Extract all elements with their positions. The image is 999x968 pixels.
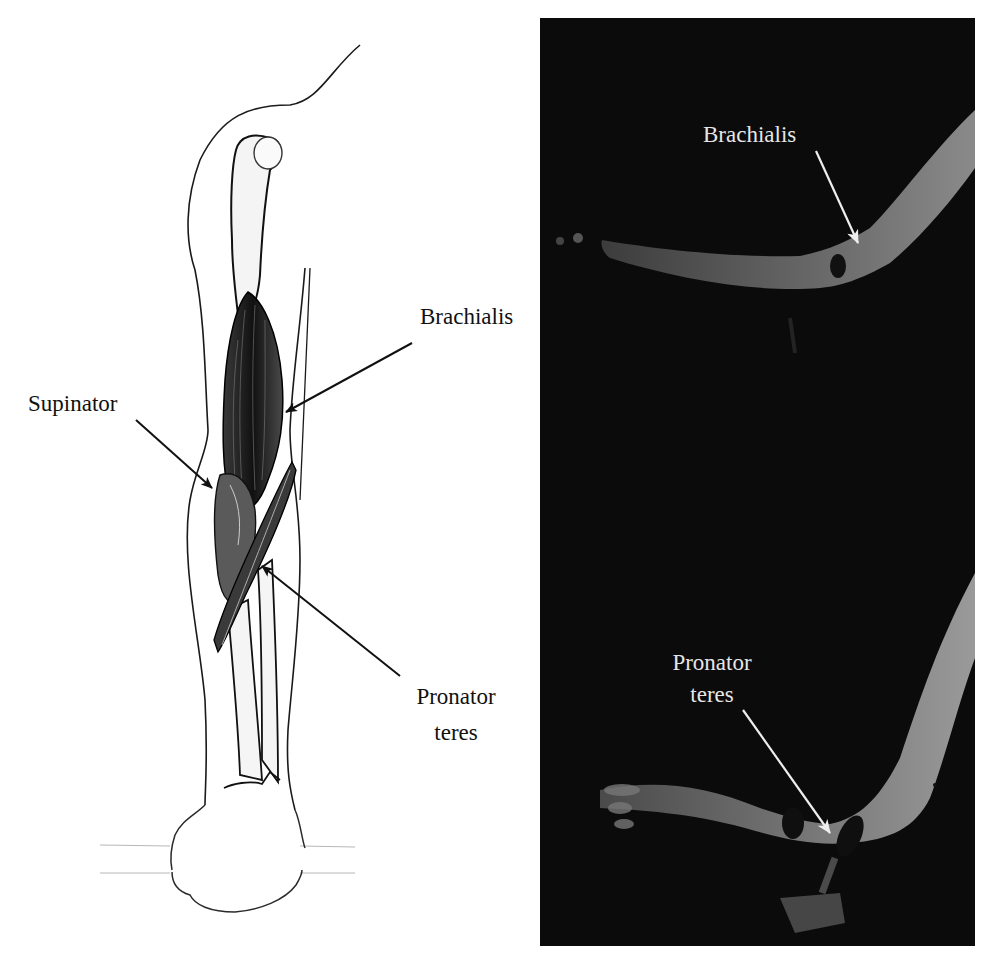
label-pronator-teres-line2: teres	[404, 720, 508, 746]
arm-photos	[540, 18, 975, 946]
photo-label-brachialis: Brachialis	[703, 122, 796, 148]
photo-label-pronator-teres-line1: Pronator	[664, 650, 760, 676]
arm-drawing	[0, 0, 538, 968]
label-supinator: Supinator	[28, 391, 117, 417]
photo-label-pronator-teres-line2: teres	[664, 682, 760, 708]
photo-brachialis-arrow	[816, 151, 858, 243]
bottom-arm-photo	[600, 573, 975, 933]
label-pronator-teres-line1: Pronator	[404, 684, 508, 710]
drawing-panel: Brachialis Supinator Pronator teres	[0, 0, 538, 968]
hand-outline	[171, 805, 305, 912]
supinator-arrow	[136, 420, 212, 488]
pronator-teres-arrow	[262, 566, 400, 676]
photo-label-pronator-teres: Pronator teres	[664, 650, 760, 708]
table-lines	[100, 845, 355, 873]
anatomy-figure: Brachialis Supinator Pronator teres	[0, 0, 999, 968]
photo-panel: Brachialis Pronator teres	[540, 18, 975, 946]
label-brachialis: Brachialis	[420, 304, 513, 330]
label-pronator-teres: Pronator teres	[404, 684, 508, 746]
